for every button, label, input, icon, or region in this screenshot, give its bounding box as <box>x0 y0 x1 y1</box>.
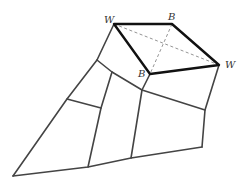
inner-edge-c <box>142 90 205 110</box>
vertex-labels: W B W B <box>104 11 236 79</box>
label-w-top-left: W <box>104 14 115 25</box>
label-w-right: W <box>225 59 236 70</box>
inner-edge-f <box>131 90 142 158</box>
highlighted-quadrilateral <box>114 24 219 74</box>
outer-left-edge <box>13 24 114 176</box>
subdivision-edges <box>13 24 219 176</box>
diagram-canvas: W B W B <box>0 0 245 186</box>
outer-right-edge <box>202 65 219 147</box>
diagonal-b-b <box>150 24 172 74</box>
label-b-top-right: B <box>167 11 175 22</box>
label-b-bottom: B <box>137 68 145 79</box>
inner-edge-e <box>67 99 101 108</box>
inner-edge-a <box>97 60 142 90</box>
inner-edge-d <box>88 72 112 167</box>
outer-bottom-edge <box>13 147 202 176</box>
